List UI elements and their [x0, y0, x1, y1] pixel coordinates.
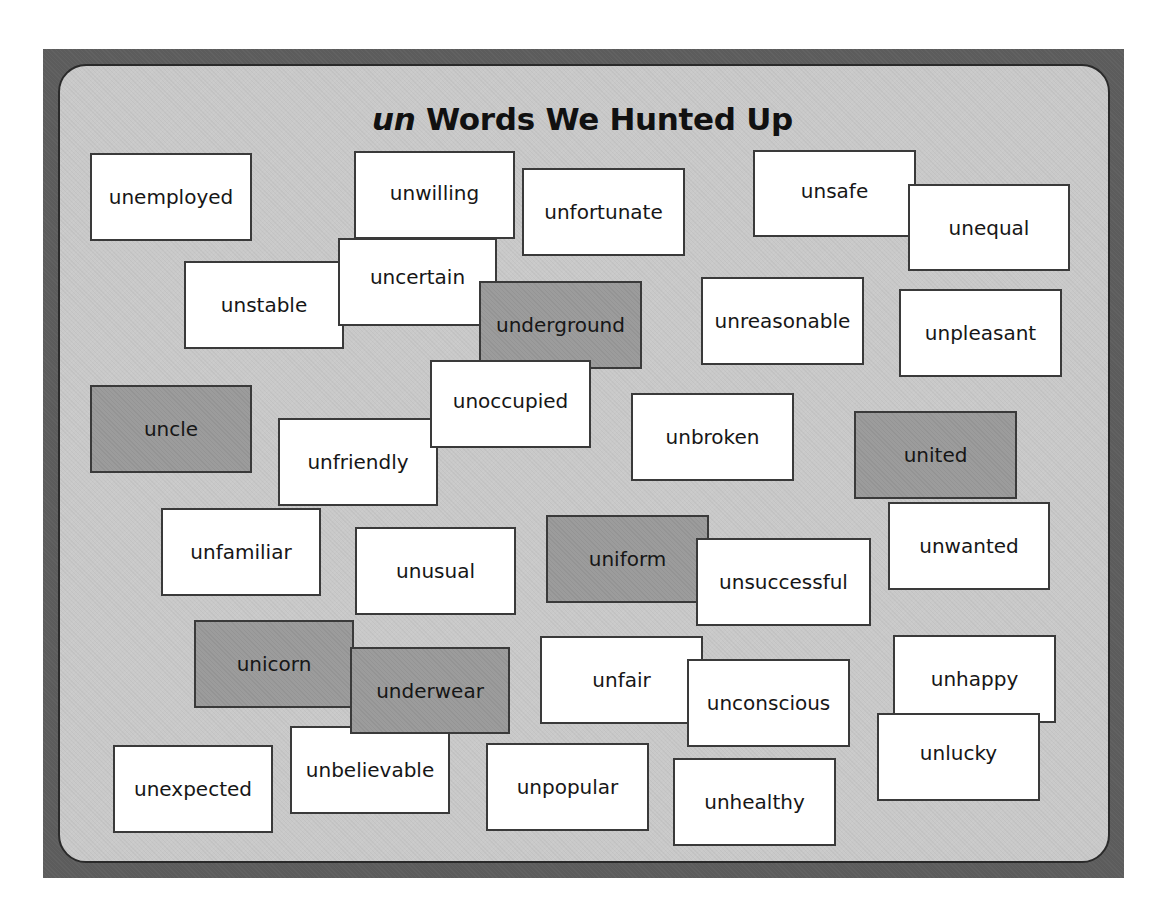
card-word: uncle: [144, 417, 198, 441]
card-word: unlucky: [920, 741, 997, 765]
card-word: uniform: [589, 547, 667, 571]
card-word: unsuccessful: [719, 570, 848, 594]
title-rest: Words We Hunted Up: [416, 101, 793, 137]
card-word: unfriendly: [307, 450, 408, 474]
word-card-uncle[interactable]: uncle: [90, 385, 252, 473]
word-card-unemployed[interactable]: unemployed: [90, 153, 252, 241]
word-card-uniform[interactable]: uniform: [546, 515, 709, 603]
card-word: unbelievable: [306, 758, 434, 782]
word-card-unfair[interactable]: unfair: [540, 636, 703, 724]
word-card-unfamiliar[interactable]: unfamiliar: [161, 508, 321, 596]
word-card-unlucky[interactable]: unlucky: [877, 713, 1040, 801]
card-word: unconscious: [707, 691, 831, 715]
word-card-unfriendly[interactable]: unfriendly: [278, 418, 438, 506]
word-card-unpleasant[interactable]: unpleasant: [899, 289, 1062, 377]
word-card-unusual[interactable]: unusual: [355, 527, 516, 615]
card-word: unoccupied: [453, 389, 569, 413]
card-word: unequal: [949, 216, 1030, 240]
card-word: unexpected: [134, 777, 252, 801]
word-card-unbroken[interactable]: unbroken: [631, 393, 794, 481]
card-word: unstable: [221, 293, 307, 317]
word-card-unexpected[interactable]: unexpected: [113, 745, 273, 833]
card-word: unsafe: [801, 179, 868, 203]
card-word: uncertain: [370, 265, 465, 289]
word-card-unicorn[interactable]: unicorn: [194, 620, 354, 708]
word-card-underwear[interactable]: underwear: [350, 647, 510, 734]
card-word: underwear: [376, 679, 484, 703]
card-word: unusual: [396, 559, 475, 583]
word-card-underground[interactable]: underground: [479, 281, 642, 369]
word-card-unsafe[interactable]: unsafe: [753, 150, 916, 237]
card-word: unemployed: [109, 185, 233, 209]
word-card-unsuccessful[interactable]: unsuccessful: [696, 538, 871, 626]
card-word: unhealthy: [704, 790, 805, 814]
card-word: unhappy: [931, 667, 1019, 691]
card-word: unfamiliar: [190, 540, 291, 564]
card-word: unreasonable: [715, 309, 851, 333]
word-card-unreasonable[interactable]: unreasonable: [701, 277, 864, 365]
card-word: unfair: [592, 668, 650, 692]
word-card-unwanted[interactable]: unwanted: [888, 502, 1050, 590]
card-word: unbroken: [666, 425, 760, 449]
card-word: unpleasant: [925, 321, 1036, 345]
board-title: un Words We Hunted Up: [0, 101, 1165, 137]
word-card-unstable[interactable]: unstable: [184, 261, 344, 349]
word-card-unhealthy[interactable]: unhealthy: [673, 758, 836, 846]
word-card-unwilling[interactable]: unwilling: [354, 151, 515, 239]
word-card-unconscious[interactable]: unconscious: [687, 659, 850, 747]
title-prefix: un: [372, 101, 416, 137]
word-card-unfortunate[interactable]: unfortunate: [522, 168, 685, 256]
word-card-unbelievable[interactable]: unbelievable: [290, 726, 450, 814]
card-word: unicorn: [237, 652, 312, 676]
card-word: unfortunate: [544, 200, 662, 224]
card-word: unwilling: [390, 181, 479, 205]
word-card-unpopular[interactable]: unpopular: [486, 743, 649, 831]
word-card-united[interactable]: united: [854, 411, 1017, 499]
word-card-unhappy[interactable]: unhappy: [893, 635, 1056, 723]
card-word: united: [904, 443, 968, 467]
card-word: underground: [496, 313, 625, 337]
card-word: unpopular: [517, 775, 619, 799]
word-card-unoccupied[interactable]: unoccupied: [430, 360, 591, 448]
card-word: unwanted: [919, 534, 1018, 558]
word-card-uncertain[interactable]: uncertain: [338, 238, 497, 326]
word-card-unequal[interactable]: unequal: [908, 184, 1070, 271]
